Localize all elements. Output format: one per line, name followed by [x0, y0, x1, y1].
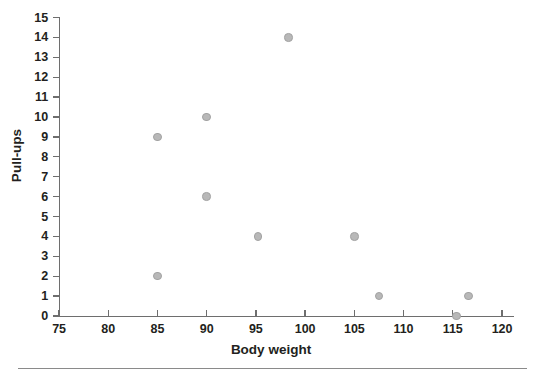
- data-point: [153, 272, 162, 281]
- y-tick-mark: [53, 236, 59, 237]
- y-tick-mark: [53, 196, 59, 197]
- x-tick-mark: [501, 310, 502, 316]
- y-tick-label: 11: [35, 90, 48, 104]
- data-point: [202, 192, 211, 201]
- data-point: [202, 113, 211, 122]
- data-point: [153, 133, 162, 142]
- y-tick-label: 6: [41, 190, 48, 204]
- y-tick-label: 9: [41, 130, 48, 144]
- y-tick-mark: [53, 216, 59, 217]
- y-tick-mark: [53, 136, 59, 137]
- y-tick-mark: [53, 37, 59, 38]
- data-point: [284, 33, 293, 42]
- data-point: [350, 232, 359, 241]
- y-tick-mark: [53, 57, 59, 58]
- x-tick-mark: [206, 310, 207, 316]
- x-tick-label: 110: [394, 322, 414, 336]
- y-tick-label: 2: [41, 269, 48, 283]
- x-tick-mark: [108, 310, 109, 316]
- x-tick-label: 85: [151, 322, 165, 336]
- y-tick-mark: [53, 96, 59, 97]
- x-tick-label: 95: [249, 322, 263, 336]
- y-tick-label: 15: [34, 11, 48, 25]
- plot-area: 0123456789101112131415 75808590951001051…: [0, 0, 542, 382]
- y-tick-label: 5: [41, 210, 48, 224]
- y-tick-label: 0: [41, 309, 48, 323]
- data-point: [464, 292, 473, 301]
- data-point: [452, 312, 461, 321]
- x-tick-label: 80: [101, 322, 115, 336]
- bottom-divider: [18, 368, 527, 369]
- y-axis-line: [59, 17, 60, 317]
- x-axis-line: [59, 316, 514, 317]
- y-tick-mark: [53, 116, 59, 117]
- x-tick-label: 120: [492, 322, 513, 336]
- y-tick-label: 4: [41, 229, 48, 243]
- x-tick-mark: [157, 310, 158, 316]
- x-tick-label: 75: [52, 322, 66, 336]
- x-tick-label: 105: [344, 322, 365, 336]
- y-tick-mark: [53, 295, 59, 296]
- y-tick-mark: [53, 256, 59, 257]
- x-axis-title: Body weight: [0, 342, 542, 357]
- y-tick-label: 12: [34, 70, 48, 84]
- y-tick-label: 10: [34, 110, 48, 124]
- x-tick-mark: [58, 310, 59, 316]
- y-tick-label: 13: [34, 50, 48, 64]
- y-tick-label: 3: [41, 249, 48, 263]
- y-tick-mark: [53, 17, 59, 18]
- x-tick-label: 90: [200, 322, 214, 336]
- x-tick-mark: [403, 310, 404, 316]
- data-point: [254, 232, 263, 241]
- y-tick-mark: [53, 156, 59, 157]
- x-tick-mark: [354, 310, 355, 316]
- y-tick-label: 7: [41, 170, 48, 184]
- x-tick-mark: [255, 310, 256, 316]
- y-tick-label: 14: [34, 30, 48, 44]
- y-tick-label: 1: [41, 289, 48, 303]
- y-tick-mark: [53, 176, 59, 177]
- y-tick-mark: [53, 276, 59, 277]
- y-tick-label: 8: [41, 150, 48, 164]
- x-tick-mark: [304, 310, 305, 316]
- data-point: [375, 292, 384, 301]
- scatter-plot-figure: 0123456789101112131415 75808590951001051…: [0, 0, 542, 382]
- y-tick-mark: [53, 77, 59, 78]
- x-tick-label: 100: [295, 322, 316, 336]
- x-tick-label: 115: [443, 322, 463, 336]
- y-axis-title: Pull-ups: [9, 116, 24, 196]
